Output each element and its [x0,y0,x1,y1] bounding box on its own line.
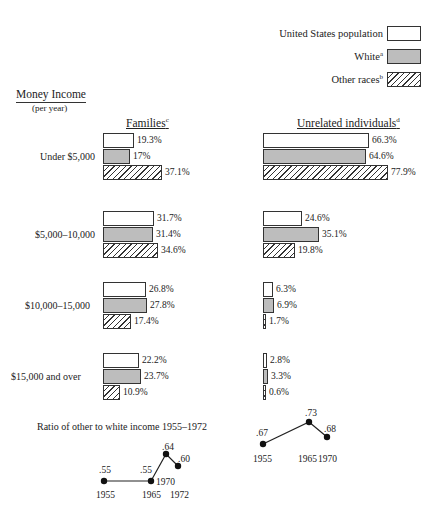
ratio-line-unrelated: .671955.731965.681970 [253,408,337,464]
svg-text:1955: 1955 [253,454,272,464]
ratio-line-families: .551955.551965.641970.601972 [96,442,190,500]
svg-text:.55: .55 [99,465,111,475]
svg-text:1970: 1970 [156,477,175,487]
svg-text:1970: 1970 [318,454,337,464]
ratio-line-charts: .551955.551965.641970.601972 .671955.731… [0,0,446,523]
svg-text:.67: .67 [256,428,268,438]
svg-text:1972: 1972 [170,490,189,500]
svg-text:.64: .64 [162,442,174,452]
svg-text:1965: 1965 [298,454,317,464]
svg-text:1965: 1965 [142,490,161,500]
svg-text:.68: .68 [324,424,336,434]
svg-text:1955: 1955 [96,490,115,500]
svg-text:.60: .60 [178,454,190,464]
svg-text:.55: .55 [140,465,152,475]
svg-text:.73: .73 [305,408,317,418]
